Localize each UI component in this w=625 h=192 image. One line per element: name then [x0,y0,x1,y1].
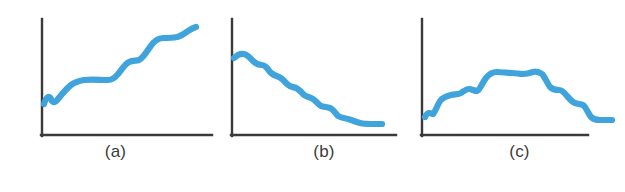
chart-a-caption: (a) [3,143,228,160]
chart-panel-a: (a) [0,0,225,192]
chart-panel-b: (b) [210,0,420,192]
chart-b-plot [210,0,420,150]
chart-a-line-series [44,27,196,104]
chart-b-caption: (b) [219,143,429,160]
chart-panel-c: (c) [400,0,625,192]
chart-c-line-series [425,72,612,120]
figure-three-trend-curves: (a) (b) (c) [0,0,625,192]
chart-c-plot [400,0,625,150]
chart-c-caption: (c) [407,143,625,160]
chart-b-line-series [234,54,382,124]
chart-a-plot [0,0,225,150]
